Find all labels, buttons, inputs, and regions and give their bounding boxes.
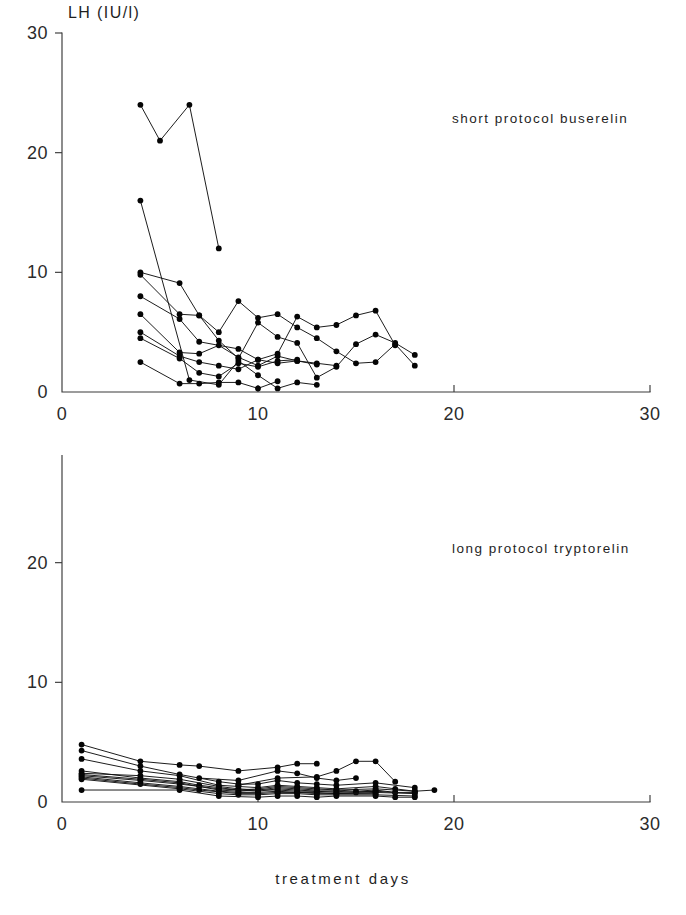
data-point	[255, 364, 261, 370]
x-tick-label-20: 20	[443, 814, 464, 834]
data-point	[294, 357, 300, 363]
data-point	[177, 316, 183, 322]
data-point	[432, 787, 438, 793]
data-point	[334, 348, 340, 354]
data-point	[353, 775, 359, 781]
y-tick-label-0: 0	[37, 792, 48, 812]
data-point	[79, 787, 85, 793]
data-point	[314, 375, 320, 381]
data-point	[392, 779, 398, 785]
data-point	[196, 763, 202, 769]
chart-canvas-bottom: 01020300102030	[0, 455, 686, 915]
x-tick-label-30: 30	[639, 404, 660, 424]
data-point	[216, 380, 222, 386]
data-point	[138, 359, 144, 365]
data-point	[255, 372, 261, 378]
data-point	[138, 329, 144, 335]
data-point	[196, 359, 202, 365]
data-point	[275, 311, 281, 317]
data-point	[236, 360, 242, 366]
data-point	[255, 357, 261, 363]
data-point	[236, 354, 242, 360]
data-point	[314, 362, 320, 368]
data-point	[236, 782, 242, 788]
data-point	[138, 198, 144, 204]
data-point	[353, 341, 359, 347]
data-point	[196, 381, 202, 387]
data-point	[314, 794, 320, 800]
data-point	[138, 293, 144, 299]
data-point	[373, 793, 379, 799]
data-point	[314, 324, 320, 330]
annotation-long-protocol: long protocol tryptorelin	[452, 541, 630, 556]
data-point	[294, 314, 300, 320]
data-point	[373, 758, 379, 764]
data-point	[196, 313, 202, 319]
data-point	[275, 775, 281, 781]
data-point	[236, 768, 242, 774]
data-point	[334, 322, 340, 328]
data-point	[373, 359, 379, 365]
series-patient-1	[79, 742, 320, 774]
data-point	[294, 770, 300, 776]
y-tick-label-20: 20	[27, 553, 48, 573]
data-point	[196, 787, 202, 793]
data-point	[334, 768, 340, 774]
data-point	[196, 775, 202, 781]
data-point	[216, 329, 222, 335]
axis-frame	[62, 455, 650, 802]
data-point	[294, 793, 300, 799]
data-point	[353, 313, 359, 319]
chart-panel-long-protocol: 01020300102030	[0, 455, 686, 915]
data-point	[353, 360, 359, 366]
data-point	[177, 381, 183, 387]
data-point	[412, 363, 418, 369]
series-line-patient-4	[82, 771, 415, 791]
series-line-patient-7	[140, 332, 316, 369]
data-point	[275, 334, 281, 340]
series-patient-5	[138, 293, 399, 362]
data-point	[392, 794, 398, 800]
x-axis-title: treatment days	[0, 870, 686, 887]
data-point	[314, 774, 320, 780]
axes-group: 01020300102030	[27, 23, 661, 424]
data-point	[177, 356, 183, 362]
y-tick-label-10: 10	[27, 672, 48, 692]
data-point	[236, 298, 242, 304]
data-point	[353, 758, 359, 764]
data-point	[314, 335, 320, 341]
series-group	[79, 742, 438, 800]
data-point	[412, 794, 418, 800]
data-point	[314, 382, 320, 388]
data-point	[275, 358, 281, 364]
axes-group: 01020300102030	[27, 455, 661, 834]
data-point	[177, 280, 183, 286]
data-point	[196, 351, 202, 357]
y-tick-label-0: 0	[37, 382, 48, 402]
series-patient-8	[79, 774, 418, 797]
y-axis-title: LH (IU/l)	[68, 4, 140, 22]
x-tick-label-10: 10	[247, 404, 268, 424]
data-point	[138, 102, 144, 108]
data-point	[177, 762, 183, 768]
data-point	[275, 768, 281, 774]
data-point	[255, 315, 261, 321]
data-point	[187, 377, 193, 383]
data-point	[196, 339, 202, 345]
data-point	[79, 742, 85, 748]
data-point	[373, 308, 379, 314]
data-point	[275, 793, 281, 799]
data-point	[255, 386, 261, 392]
x-tick-label-0: 0	[57, 404, 68, 424]
data-point	[187, 102, 193, 108]
figure-lh-treatment-days: 01020300102030 01020300102030 LH (IU/l) …	[0, 0, 686, 915]
data-point	[138, 781, 144, 787]
annotation-short-protocol: short protocol buserelin	[452, 111, 628, 126]
data-point	[177, 787, 183, 793]
data-point	[275, 386, 281, 392]
data-point	[138, 335, 144, 341]
y-tick-label-10: 10	[27, 262, 48, 282]
data-point	[216, 363, 222, 369]
data-point	[275, 378, 281, 384]
data-point	[236, 380, 242, 386]
